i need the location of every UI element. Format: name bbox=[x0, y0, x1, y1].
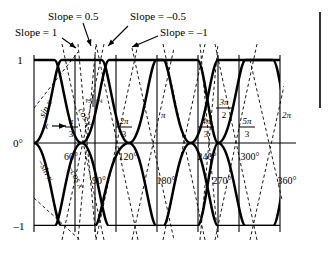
radian-tick-2pi: 2π bbox=[282, 110, 292, 120]
radian-numerator: π bbox=[69, 116, 74, 126]
radian-denominator: 2 bbox=[222, 110, 227, 120]
degree-tick-240: 240° bbox=[198, 151, 217, 162]
radian-numerator: 5π bbox=[242, 116, 252, 126]
slope-0-5-label: Slope = 0.5 bbox=[48, 10, 99, 22]
radian-numerator: 2π bbox=[119, 116, 129, 126]
y-label-origin: 0° bbox=[13, 137, 23, 149]
radian-numerator: π bbox=[82, 98, 92, 103]
degree-tick-300: 300° bbox=[241, 151, 260, 162]
radian-denominator: 3 bbox=[69, 129, 74, 139]
degree-tick-360: 360° bbox=[278, 175, 297, 186]
radian-numerator: 4π bbox=[201, 116, 211, 126]
slope-1-label: Slope = 1 bbox=[15, 26, 57, 38]
radian-denominator: 3 bbox=[245, 129, 250, 139]
radian-numerator: 3π bbox=[218, 97, 229, 107]
chart-svg: Slope = 1 Slope = 0.5 Slope = –0.5 Slope… bbox=[0, 0, 329, 256]
degree-tick-120: 120° bbox=[119, 151, 138, 162]
degree-tick-90: 90° bbox=[92, 175, 106, 186]
degree-tick-270: 270° bbox=[213, 175, 232, 186]
y-label-bottom: –1 bbox=[13, 220, 25, 232]
radian-denominator: 3 bbox=[122, 129, 127, 139]
radian-tick-pi: π bbox=[161, 110, 166, 120]
y-label-top: 1 bbox=[17, 54, 23, 66]
degree-tick-180: 180° bbox=[157, 175, 176, 186]
degree-tick-60: 60° bbox=[64, 151, 78, 162]
radian-denominator: 2 bbox=[94, 99, 104, 104]
slope-neg-1-label: Slope = –1 bbox=[160, 26, 208, 38]
radian-denominator: 3 bbox=[204, 129, 209, 139]
trig-curves-figure: Slope = 1 Slope = 0.5 Slope = –0.5 Slope… bbox=[0, 0, 329, 256]
slope-neg-0-5-label: Slope = –0.5 bbox=[130, 10, 187, 22]
x-arrow-label: x bbox=[43, 121, 49, 131]
